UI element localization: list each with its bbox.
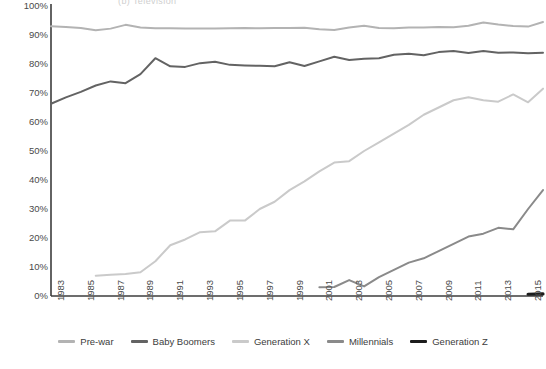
legend-swatch-icon	[58, 340, 75, 343]
y-axis-tick-labels: 0%10%20%30%40%50%60%70%80%90%100%	[8, 0, 48, 330]
legend-item[interactable]: Baby Boomers	[131, 336, 215, 347]
legend-label: Generation Z	[432, 336, 487, 347]
y-tick-label: 40%	[8, 175, 48, 184]
series-line-millennials	[319, 190, 543, 287]
y-tick-label: 80%	[8, 59, 48, 68]
y-tick-label: 30%	[8, 204, 48, 213]
series-line-generation-x	[96, 89, 543, 276]
y-tick-label: 100%	[8, 1, 48, 10]
legend-swatch-icon	[327, 340, 344, 343]
legend-swatch-icon	[410, 340, 427, 343]
y-tick-label: 10%	[8, 262, 48, 271]
y-tick-label: 70%	[8, 88, 48, 97]
plot-svg	[0, 0, 546, 330]
legend-item[interactable]: Pre-war	[58, 336, 113, 347]
chart-legend: Pre-warBaby BoomersGeneration XMillennia…	[0, 336, 546, 347]
y-tick-label: 20%	[8, 233, 48, 242]
series-line-baby-boomers	[51, 51, 543, 104]
series-line-pre-war	[51, 22, 543, 30]
chart-container: (b) Television 0%10%20%30%40%50%60%70%80…	[0, 0, 546, 369]
plot-area: 0%10%20%30%40%50%60%70%80%90%100%	[0, 0, 546, 330]
legend-label: Generation X	[254, 336, 310, 347]
y-tick-label: 60%	[8, 117, 48, 126]
y-tick-label: 0%	[8, 291, 48, 300]
legend-swatch-icon	[232, 340, 249, 343]
legend-label: Baby Boomers	[153, 336, 215, 347]
legend-item[interactable]: Generation X	[232, 336, 310, 347]
y-tick-label: 90%	[8, 30, 48, 39]
legend-label: Millennials	[349, 336, 393, 347]
legend-label: Pre-war	[80, 336, 113, 347]
legend-item[interactable]: Generation Z	[410, 336, 487, 347]
y-tick-label: 50%	[8, 146, 48, 155]
legend-item[interactable]: Millennials	[327, 336, 393, 347]
legend-swatch-icon	[131, 340, 148, 343]
